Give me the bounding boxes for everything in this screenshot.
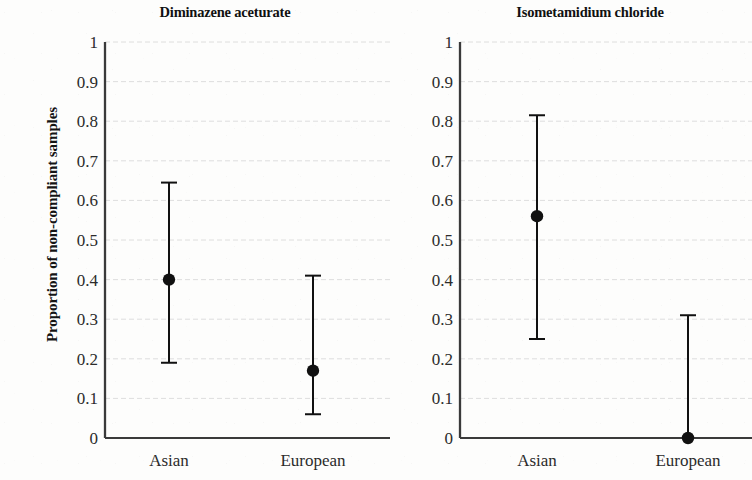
x-category-label: Asian — [517, 451, 557, 470]
data-point-group — [529, 115, 545, 339]
y-tick-label: 0.1 — [77, 389, 98, 408]
y-tick-label: 0.4 — [432, 271, 454, 290]
data-point-marker — [531, 210, 543, 222]
y-tick-label: 0.5 — [432, 231, 453, 250]
data-point-marker — [682, 432, 694, 444]
y-tick-label: 0 — [445, 429, 454, 448]
x-category-label: European — [655, 451, 721, 470]
x-category-label: Asian — [149, 451, 189, 470]
panel-title-right: Isometamidium chloride — [430, 4, 750, 21]
panel-diminazene-aceturate: Diminazene aceturate 00.10.20.30.40.50.6… — [0, 0, 400, 480]
y-tick-label: 0.9 — [432, 73, 453, 92]
data-point-group — [305, 276, 321, 415]
y-tick-label: 0.8 — [77, 112, 98, 131]
data-point-marker — [163, 273, 175, 285]
plot-area-right: 00.10.20.30.40.50.60.70.80.91AsianEurope… — [400, 0, 752, 480]
y-tick-label: 0.7 — [432, 152, 454, 171]
y-tick-label: 0.1 — [432, 389, 453, 408]
plot-area-left: 00.10.20.30.40.50.60.70.80.91AsianEurope… — [0, 0, 400, 480]
y-tick-label: 0.8 — [432, 112, 453, 131]
panel-title-left: Diminazene aceturate — [60, 4, 390, 21]
y-tick-label: 0 — [90, 429, 99, 448]
y-tick-label: 0.7 — [77, 152, 99, 171]
data-point-group — [680, 315, 696, 444]
y-tick-label: 1 — [445, 33, 454, 52]
x-category-label: European — [280, 451, 346, 470]
y-tick-label: 0.6 — [77, 191, 98, 210]
y-tick-label: 1 — [90, 33, 99, 52]
data-point-group — [161, 183, 177, 363]
y-tick-label: 0.2 — [432, 350, 453, 369]
y-tick-label: 0.4 — [77, 271, 99, 290]
y-tick-label: 0.3 — [432, 310, 453, 329]
panel-isometamidium-chloride: Isometamidium chloride 00.10.20.30.40.50… — [400, 0, 752, 480]
y-tick-label: 0.5 — [77, 231, 98, 250]
y-tick-label: 0.3 — [77, 310, 98, 329]
figure-canvas: Proportion of non-compliant samples Dimi… — [0, 0, 752, 480]
data-point-marker — [307, 364, 319, 376]
y-tick-label: 0.9 — [77, 73, 98, 92]
y-tick-label: 0.2 — [77, 350, 98, 369]
y-tick-label: 0.6 — [432, 191, 453, 210]
